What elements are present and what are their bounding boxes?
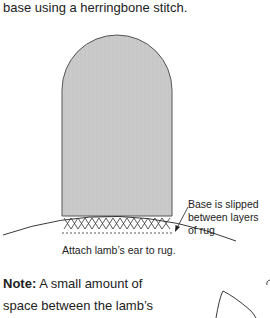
figure-caption: Attach lamb’s ear to rug. [62, 244, 176, 256]
ear-attachment-diagram [0, 0, 270, 318]
next-figure-mark [267, 280, 270, 285]
note-paragraph: Note: A small amount of space between th… [3, 273, 183, 317]
lamb-ear-shape [62, 35, 172, 216]
note-line: A small amount of [39, 276, 142, 291]
callout-line: of rug [188, 224, 259, 237]
note-line: space between the lamb’s [3, 295, 183, 317]
callout-line: Base is slipped [188, 198, 259, 211]
note-label: Note: [3, 276, 36, 291]
next-figure-outline [216, 291, 256, 318]
callout-line: between layers [188, 211, 259, 224]
herringbone-stitch [64, 218, 170, 229]
callout-text: Base is slipped between layers of rug [188, 198, 259, 237]
arrow-head-icon [175, 225, 180, 232]
